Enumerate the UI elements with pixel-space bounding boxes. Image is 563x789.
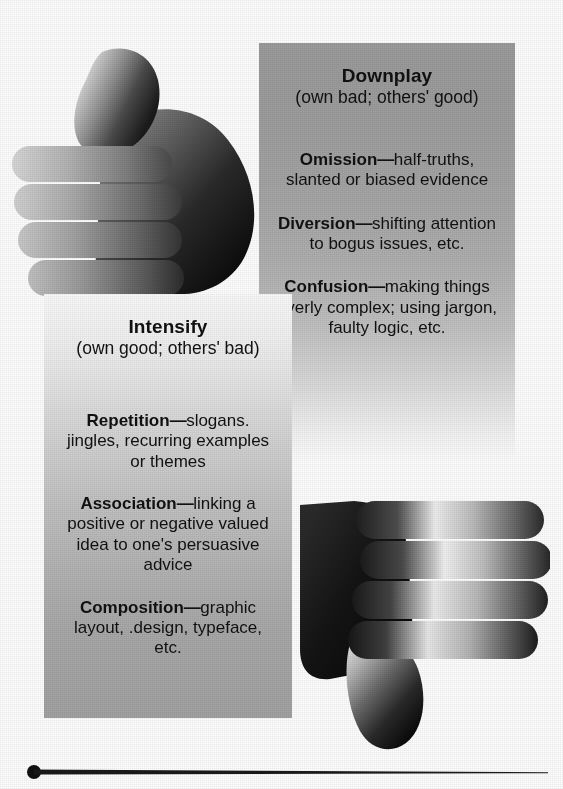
- entry-dash: —: [377, 150, 394, 169]
- thumbs-up-icon: [6, 28, 274, 300]
- entry-dash: —: [170, 411, 187, 430]
- tapered-rule-icon: [26, 762, 548, 782]
- entry-term: Composition: [80, 598, 184, 617]
- intensify-entry-composition: Composition—graphic layout, .design, typ…: [58, 598, 278, 659]
- downplay-panel: Downplay (own bad; others' good) Omissio…: [259, 43, 515, 461]
- figure-page: Downplay (own bad; others' good) Omissio…: [0, 0, 563, 789]
- entry-dash: —: [184, 598, 201, 617]
- downplay-heading: Downplay: [274, 65, 500, 86]
- entry-dash: —: [356, 214, 373, 233]
- downplay-subheading: (own bad; others' good): [274, 87, 500, 108]
- entry-dash: —: [368, 277, 385, 296]
- entry-term: Omission: [300, 150, 377, 169]
- thumbs-down-icon: [300, 497, 550, 753]
- intensify-entry-repetition: Repetition—slogans. jingles, recurring e…: [58, 411, 278, 472]
- intensify-heading: Intensify: [58, 316, 278, 337]
- intensify-panel: Intensify (own good; others' bad) Repeti…: [44, 294, 292, 718]
- entry-term: Association: [80, 494, 176, 513]
- entry-dash: —: [177, 494, 194, 513]
- downplay-entry-list: Omission—half-truths, slanted or biased …: [274, 150, 500, 339]
- intensify-entry-list: Repetition—slogans. jingles, recurring e…: [58, 411, 278, 659]
- bottom-rule: [26, 762, 548, 782]
- downplay-entry-confusion: Confusion—making things overly complex; …: [274, 277, 500, 338]
- entry-term: Diversion: [278, 214, 355, 233]
- entry-term: Confusion: [284, 277, 368, 296]
- intensify-entry-association: Association—linking a positive or negati…: [58, 494, 278, 576]
- intensify-subheading: (own good; others' bad): [58, 338, 278, 359]
- downplay-entry-diversion: Diversion—shifting attention to bogus is…: [274, 214, 500, 255]
- entry-term: Repetition: [87, 411, 170, 430]
- downplay-entry-omission: Omission—half-truths, slanted or biased …: [274, 150, 500, 191]
